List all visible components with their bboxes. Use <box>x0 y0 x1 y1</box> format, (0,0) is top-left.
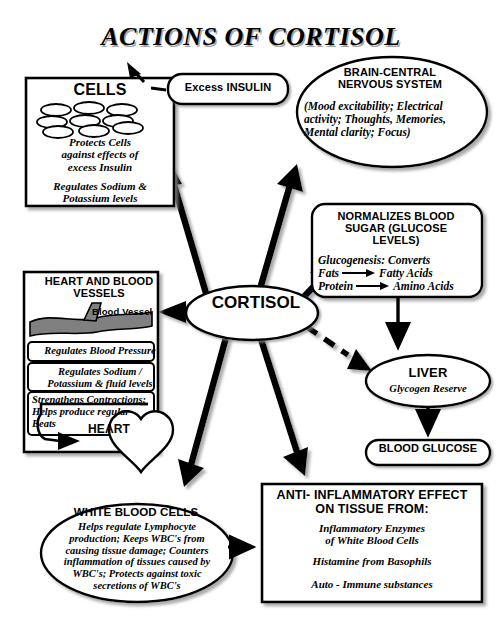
page-title: ACTIONS OF CORTISOL <box>0 22 502 52</box>
blood-sugar-title: NORMALIZES BLOOD SUGAR (GLUCOSE LEVELS) <box>322 211 470 247</box>
right-arrow-icon <box>342 269 376 277</box>
right-arrow-icon <box>356 282 390 290</box>
heart-vessels-row-2: Regulates Sodium / Potassium & fluid lev… <box>30 366 170 390</box>
heart-vessels-row-1: Regulates Blood Pressure <box>30 345 170 357</box>
liver-body: Glycogen Reserve <box>374 383 482 395</box>
reaction-fats-left: Fats <box>318 267 339 280</box>
heart-vessels-title: HEART AND BLOOD VESSELS <box>32 276 166 300</box>
arrow-cortisol-to-anti-inflammatory <box>259 333 308 476</box>
excess-insulin-label: Excess INSULIN <box>176 82 280 94</box>
heart-label: HEART <box>76 423 142 436</box>
blood-glucose-label: BLOOD GLUCOSE <box>370 443 486 455</box>
glucogenesis-line: Glucogenesis: Converts <box>318 254 476 267</box>
reaction-protein-left: Protein <box>318 280 353 293</box>
cortisol-label: CORTISOL <box>196 294 316 312</box>
cells-title: CELLS <box>30 81 170 98</box>
liver-title: LIVER <box>380 366 476 380</box>
arrow-cortisol-to-white-blood-cells <box>178 334 227 487</box>
anti-inflammatory-title: ANTI- INFLAMMATORY EFFECT ON TISSUE FROM… <box>266 489 478 516</box>
cells-illustration <box>37 102 143 138</box>
liver-ellipse <box>366 355 490 407</box>
diagram-canvas: ACTIONS OF CORTISOL CELLS Protects Cells… <box>0 0 502 636</box>
reaction-protein-right: Amino Acids <box>393 280 454 293</box>
reaction-fats: Fats Fatty Acids <box>318 267 476 280</box>
cells-body-1: Protects Cells against effects of excess… <box>28 136 172 173</box>
white-blood-cells-body: Helps regulate Lymphocyte production; Ke… <box>46 521 228 592</box>
blood-sugar-body: Glucogenesis: Converts Fats Fatty Acids … <box>318 254 476 293</box>
arrow-cortisol-to-brain <box>258 164 303 296</box>
reaction-protein: Protein Amino Acids <box>318 280 476 293</box>
anti-inflammatory-item-2: Histamine from Basophils <box>266 555 478 567</box>
reaction-fats-right: Fatty Acids <box>379 267 433 280</box>
blood-vessel-label: Blood Vessel <box>92 307 170 317</box>
brain-body: (Mood excitability; Electrical activity;… <box>304 100 480 139</box>
anti-inflammatory-item-3: Auto - Immune substances <box>266 578 478 590</box>
white-blood-cells-title: WHITE BLOOD CELLS <box>56 506 216 518</box>
brain-title: BRAIN-CENTRAL NERVOUS SYSTEM <box>310 67 470 91</box>
anti-inflammatory-item-1: Inflammatory Enzymes of White Blood Cell… <box>266 522 478 547</box>
cells-body-2: Regulates Sodium & Potassium levels <box>28 180 172 205</box>
